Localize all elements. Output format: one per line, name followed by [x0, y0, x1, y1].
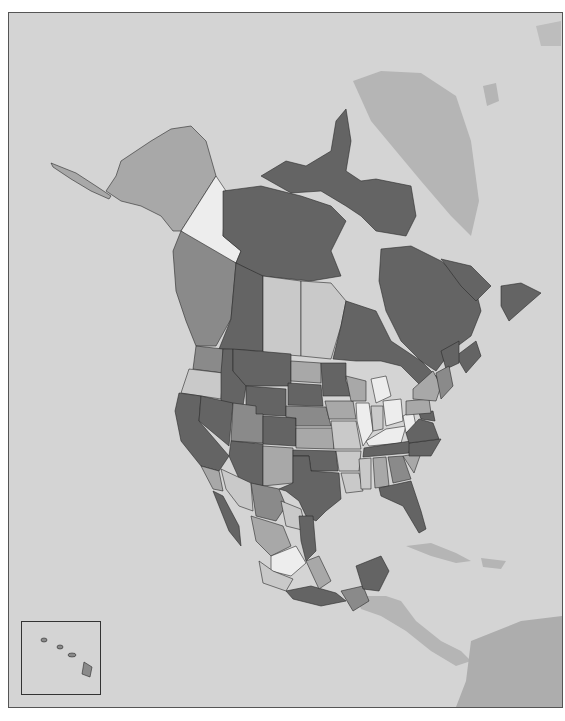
region-guerrero-oaxaca[interactable]: [286, 586, 346, 606]
region-alaska-aleutians: [51, 163, 111, 199]
region-arkansas[interactable]: [336, 451, 361, 471]
iceland-island: [483, 83, 499, 106]
region-hawaii-maui[interactable]: [68, 653, 76, 657]
region-yucatan[interactable]: [356, 556, 389, 591]
region-veracruz[interactable]: [306, 556, 331, 589]
central-america: [356, 596, 471, 666]
region-indiana[interactable]: [371, 406, 383, 431]
region-washington[interactable]: [193, 346, 223, 373]
cuba: [406, 543, 471, 563]
region-new-mexico[interactable]: [263, 446, 293, 486]
region-hawaii-big-island[interactable]: [82, 662, 92, 677]
region-montana[interactable]: [233, 349, 291, 386]
hispaniola: [481, 558, 506, 569]
region-pennsylvania[interactable]: [406, 399, 431, 415]
region-nova-scotia[interactable]: [456, 341, 481, 373]
region-south-dakota[interactable]: [288, 383, 323, 406]
south-america: [456, 616, 562, 707]
region-nuevo-leon-tamaulipas[interactable]: [299, 516, 316, 561]
region-wisconsin[interactable]: [346, 376, 366, 401]
map-frame: [8, 12, 563, 708]
arctic-island-ne: [536, 21, 561, 46]
region-newfoundland-island[interactable]: [501, 283, 541, 321]
choropleth-map: [9, 13, 562, 707]
region-hawaii-kauai[interactable]: [41, 638, 47, 642]
region-kansas[interactable]: [296, 428, 334, 449]
region-louisiana[interactable]: [341, 473, 363, 493]
region-saskatchewan[interactable]: [263, 276, 301, 356]
hawaii-map: [22, 622, 100, 694]
region-north-dakota[interactable]: [291, 361, 321, 383]
region-missouri[interactable]: [331, 421, 361, 449]
region-florida[interactable]: [379, 481, 426, 533]
region-colorado[interactable]: [263, 416, 296, 446]
region-hawaii-oahu[interactable]: [57, 645, 63, 649]
region-michigan[interactable]: [371, 376, 391, 403]
region-mississippi[interactable]: [359, 458, 371, 489]
region-iowa[interactable]: [325, 401, 356, 419]
region-ohio[interactable]: [383, 399, 403, 426]
region-alabama[interactable]: [373, 457, 389, 488]
hawaii-inset: [21, 621, 101, 695]
